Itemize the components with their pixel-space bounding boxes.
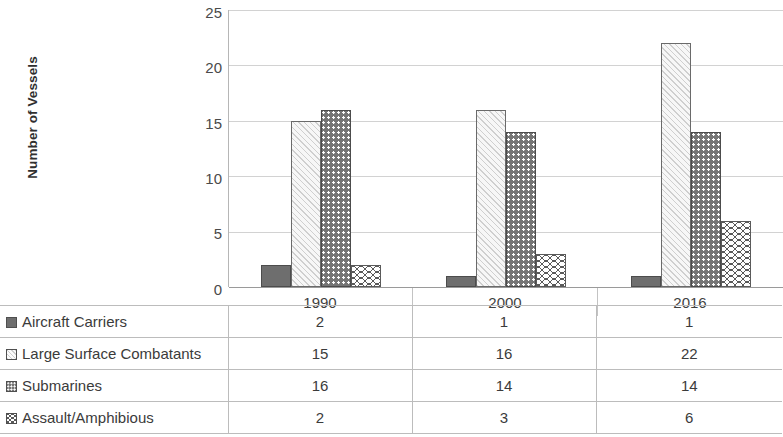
cell-assault-amphibious-1990: 2 bbox=[228, 402, 412, 434]
cell-large-surface-combatants-2016: 22 bbox=[596, 338, 782, 370]
plot-area bbox=[228, 10, 782, 287]
legend-swatch-dots-icon bbox=[6, 381, 17, 392]
series-label: Assault/Amphibious bbox=[22, 409, 154, 426]
cell-aircraft-carriers-2016: 1 bbox=[596, 306, 782, 338]
series-label: Aircraft Carriers bbox=[22, 313, 127, 330]
data-table: Aircraft Carriers 2 1 1 Large Surface Co… bbox=[0, 305, 782, 434]
legend-item-large-surface-combatants: Large Surface Combatants bbox=[0, 338, 228, 370]
cell-submarines-2016: 14 bbox=[596, 370, 782, 402]
cell-large-surface-combatants-2000: 16 bbox=[412, 338, 596, 370]
bar-assault-amphibious-1990[interactable] bbox=[351, 265, 381, 287]
bar-large-surface-combatants-2000[interactable] bbox=[476, 110, 506, 287]
y-tick-0: 0 bbox=[182, 282, 222, 297]
table-row: Aircraft Carriers 2 1 1 bbox=[0, 306, 782, 338]
bar-aircraft-carriers-2016[interactable] bbox=[631, 276, 661, 287]
y-axis-tick-labels: 0 5 10 15 20 25 bbox=[178, 0, 222, 300]
cell-large-surface-combatants-1990: 15 bbox=[228, 338, 412, 370]
y-tick-20: 20 bbox=[182, 60, 222, 75]
table-row: Large Surface Combatants 15 16 22 bbox=[0, 338, 782, 370]
y-tick-5: 5 bbox=[182, 226, 222, 241]
cell-aircraft-carriers-1990: 2 bbox=[228, 306, 412, 338]
bar-groups bbox=[229, 10, 783, 287]
legend-item-assault-amphibious: Assault/Amphibious bbox=[0, 402, 228, 434]
series-label: Large Surface Combatants bbox=[22, 345, 201, 362]
legend-item-aircraft-carriers: Aircraft Carriers bbox=[0, 306, 228, 338]
cell-submarines-2000: 14 bbox=[412, 370, 596, 402]
y-tick-15: 15 bbox=[182, 116, 222, 131]
bar-assault-amphibious-2000[interactable] bbox=[536, 254, 566, 287]
table-row: Submarines 16 14 14 bbox=[0, 370, 782, 402]
bar-group-2000 bbox=[414, 10, 599, 287]
plot-region: 0 5 10 15 20 25 bbox=[0, 0, 782, 300]
bar-aircraft-carriers-2000[interactable] bbox=[446, 276, 476, 287]
bar-large-surface-combatants-2016[interactable] bbox=[661, 43, 691, 287]
cell-assault-amphibious-2016: 6 bbox=[596, 402, 782, 434]
legend-item-submarines: Submarines bbox=[0, 370, 228, 402]
legend-swatch-zigzag-icon bbox=[6, 413, 17, 424]
cell-aircraft-carriers-2000: 1 bbox=[412, 306, 596, 338]
cell-submarines-1990: 16 bbox=[228, 370, 412, 402]
y-tick-10: 10 bbox=[182, 171, 222, 186]
cell-assault-amphibious-2000: 3 bbox=[412, 402, 596, 434]
bar-submarines-2000[interactable] bbox=[506, 132, 536, 287]
y-tick-25: 25 bbox=[182, 5, 222, 20]
bar-submarines-1990[interactable] bbox=[321, 110, 351, 287]
bar-group-1990 bbox=[229, 10, 414, 287]
legend-swatch-solid-icon bbox=[6, 317, 17, 328]
bar-group-2016 bbox=[598, 10, 783, 287]
bar-aircraft-carriers-1990[interactable] bbox=[261, 265, 291, 287]
table-row: Assault/Amphibious 2 3 6 bbox=[0, 402, 782, 434]
series-label: Submarines bbox=[22, 377, 102, 394]
bar-assault-amphibious-2016[interactable] bbox=[721, 221, 751, 287]
legend-swatch-hatch-icon bbox=[6, 349, 17, 360]
bar-large-surface-combatants-1990[interactable] bbox=[291, 121, 321, 287]
bar-submarines-2016[interactable] bbox=[691, 132, 721, 287]
